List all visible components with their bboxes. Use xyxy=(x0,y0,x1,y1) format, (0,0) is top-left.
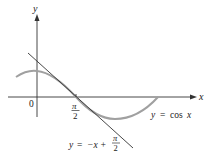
cos-label-func: cos xyxy=(170,110,183,120)
cos-label-y: y xyxy=(150,110,156,120)
tangent-label-y: y xyxy=(68,140,74,150)
pi-over-2-label: π 2 xyxy=(72,101,80,121)
x-axis xyxy=(8,95,197,100)
cos-label-eq: = xyxy=(160,110,165,120)
y-axis-arrowhead-icon xyxy=(35,14,40,21)
x-axis-label: x xyxy=(198,91,204,102)
origin-label: 0 xyxy=(29,99,34,109)
cos-label-var: x xyxy=(186,110,192,120)
y-axis xyxy=(35,14,40,117)
pi-numerator: π xyxy=(72,101,77,111)
tangent-label-eq: = xyxy=(77,140,82,150)
cosine-tangent-diagram: y x 0 π 2 y = cos x y = −x + π 2 xyxy=(0,0,217,162)
x-axis-arrowhead-icon xyxy=(190,95,197,100)
cosine-curve-label: y = cos x xyxy=(150,110,192,120)
tangent-frac-num: π xyxy=(113,133,118,143)
pi-denominator: 2 xyxy=(73,111,78,121)
tangent-label-rhs: −x + xyxy=(87,140,106,150)
tangent-line-label: y = −x + π 2 xyxy=(68,133,120,153)
tangent-frac-den: 2 xyxy=(114,143,118,153)
y-axis-label: y xyxy=(32,3,38,14)
